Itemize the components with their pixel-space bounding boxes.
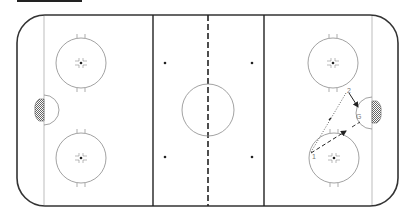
neutral-dot: [251, 62, 254, 65]
neutral-dot: [164, 156, 167, 159]
left-net: [35, 99, 44, 121]
right-net: [372, 101, 381, 123]
player-2-label: 2: [347, 87, 351, 94]
neutral-dot: [251, 156, 254, 159]
goalie-label: G: [356, 113, 361, 120]
hockey-rink: 2 G 1: [0, 0, 416, 217]
player-1-label: 1: [312, 153, 316, 160]
neutral-dot: [164, 62, 167, 65]
